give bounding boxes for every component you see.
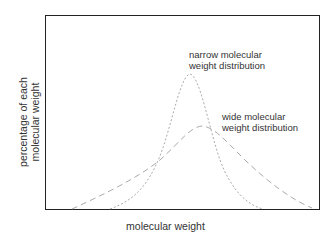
- wide-annotation: wide molecular weight distribution: [222, 111, 298, 133]
- wide-annotation-line1: wide molecular: [222, 111, 298, 122]
- y-axis-label: percentage of each molecular weight: [17, 57, 41, 187]
- narrow-annotation: narrow molecular weight distribution: [189, 49, 265, 71]
- wide-annotation-line2: weight distribution: [222, 122, 298, 133]
- narrow-annotation-line1: narrow molecular: [189, 49, 265, 60]
- wide-distribution-curve: [72, 126, 312, 209]
- y-axis-label-line1: percentage of each: [17, 57, 29, 187]
- x-axis-label: molecular weight: [0, 220, 331, 232]
- narrow-annotation-line2: weight distribution: [189, 60, 265, 71]
- y-axis-label-line2: molecular weight: [29, 57, 41, 187]
- narrow-distribution-curve: [110, 74, 263, 209]
